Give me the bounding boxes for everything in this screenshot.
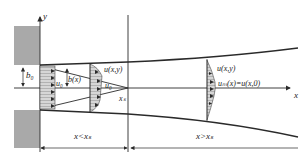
region-initial-label: x<xₛ: [74, 132, 91, 141]
u-xy-label-main: u(x,y): [217, 65, 235, 73]
nozzle-wall-top: [14, 26, 40, 65]
xs-label: xₛ: [119, 95, 126, 103]
b0-label: b₀: [26, 71, 34, 80]
nozzle-wall-bottom: [14, 110, 40, 148]
bx-label: b(x): [68, 76, 81, 84]
initial-velocity-profile: [40, 66, 55, 109]
jet-boundary-top: [40, 48, 298, 65]
u0-tip-label: u₀: [105, 82, 112, 90]
y-axis-label: y: [43, 12, 47, 21]
region-main-label: x>xₛ: [196, 132, 213, 141]
jet-diagram: [0, 0, 308, 158]
x-axis-label: x: [294, 91, 298, 100]
u-xy-label-initial: u(x,y): [104, 66, 122, 74]
um-label: uₘ(x)=u(x,0): [218, 80, 260, 88]
u0-left-label: u₀: [56, 80, 63, 88]
